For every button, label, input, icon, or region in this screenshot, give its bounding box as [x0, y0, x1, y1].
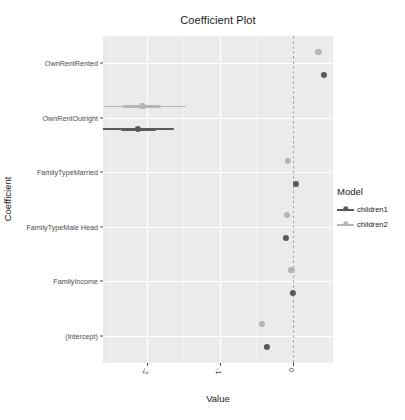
legend: Model children1children2 — [337, 186, 405, 232]
y-tick-mark — [100, 226, 103, 227]
coefficient-plot-figure: Coefficient Plot OwnRentRentedOwnRentOut… — [0, 0, 405, 420]
y-tick-mark — [100, 172, 103, 173]
x-tick-mark — [147, 363, 148, 366]
legend-item[interactable]: children1 — [337, 202, 405, 217]
data-point[interactable] — [315, 49, 321, 55]
legend-items: children1children2 — [337, 202, 405, 232]
grid-major-y — [103, 118, 333, 119]
x-tick-label: 0 — [287, 368, 296, 372]
legend-key-icon — [337, 217, 354, 232]
y-tick-mark — [100, 281, 103, 282]
grid-major-y — [103, 227, 333, 228]
x-tick-mark — [220, 363, 221, 366]
y-tick-mark — [100, 63, 103, 64]
data-point[interactable] — [264, 344, 270, 350]
page-title: Coefficient Plot — [103, 14, 333, 26]
grid-major-x — [147, 36, 148, 363]
data-point[interactable] — [135, 126, 141, 132]
grid-major-y — [103, 336, 333, 337]
y-tick-label: OwnRentOutright — [42, 113, 98, 122]
plot-panel — [103, 36, 333, 363]
grid-major-y — [103, 172, 333, 173]
data-point[interactable] — [282, 235, 288, 241]
x-tick-mark — [293, 363, 294, 366]
legend-key-icon — [337, 202, 354, 217]
y-tick-mark — [100, 335, 103, 336]
data-point[interactable] — [320, 72, 326, 78]
x-tick-label: -2 — [141, 368, 150, 374]
grid-major-x — [220, 36, 221, 363]
y-tick-label: FamilyIncome — [53, 277, 98, 286]
y-tick-label: (Intercept) — [65, 331, 98, 340]
y-tick-label: FamilyTypeMarried — [37, 168, 98, 177]
data-point[interactable] — [290, 290, 296, 296]
data-point[interactable] — [259, 321, 265, 327]
grid-major-y — [103, 63, 333, 64]
x-axis-title: Value — [103, 393, 333, 404]
legend-label: children2 — [354, 220, 388, 229]
data-point[interactable] — [293, 181, 299, 187]
grid-minor-x — [256, 36, 257, 363]
grid-major-y — [103, 281, 333, 282]
y-tick-label: OwnRentRented — [45, 59, 98, 68]
legend-item[interactable]: children2 — [337, 217, 405, 232]
grid-minor-x — [110, 36, 111, 363]
data-point[interactable] — [139, 103, 145, 109]
y-axis-title: Coefficient — [2, 177, 13, 222]
x-tick-label: -1 — [214, 368, 223, 374]
legend-title: Model — [337, 186, 405, 197]
legend-label: children1 — [354, 205, 388, 214]
grid-minor-x — [329, 36, 330, 363]
data-point[interactable] — [284, 212, 290, 218]
data-point[interactable] — [285, 158, 291, 164]
grid-minor-x — [183, 36, 184, 363]
y-tick-mark — [100, 117, 103, 118]
zero-reference-line — [293, 36, 294, 363]
y-tick-label: FamilyTypeMale Head — [26, 222, 98, 231]
